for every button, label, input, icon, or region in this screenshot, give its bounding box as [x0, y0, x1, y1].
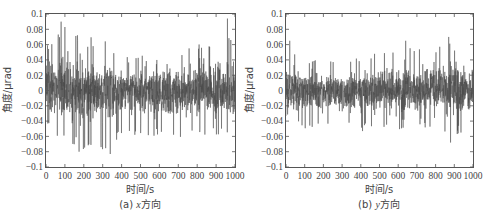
y-tick-label: 0.08 [26, 25, 43, 35]
x-tick-label: 0 [284, 171, 289, 181]
y-tick-label: 0.08 [266, 25, 283, 35]
y-tick-labels: −0.1−0.08−0.06−0.04−0.0200.020.040.060.0… [261, 9, 283, 172]
x-axis-label: 时间/s [365, 183, 394, 195]
x-tick-label: 600 [152, 171, 167, 181]
x-tick-labels: 01002003004005006007008009001000 [44, 171, 245, 181]
y-tick-labels: −0.1−0.08−0.06−0.04−0.0200.020.040.060.0… [21, 9, 43, 172]
x-tick-label: 100 [58, 171, 73, 181]
y-tick-label: −0.02 [261, 101, 283, 111]
y-tick-label: 0.06 [266, 40, 283, 50]
panel-y-direction: −0.1−0.08−0.06−0.04−0.0200.020.040.060.0… [243, 9, 483, 210]
y-tick-label: −0.1 [26, 162, 43, 172]
x-tick-label: 1000 [226, 171, 245, 181]
x-tick-label: 200 [316, 171, 331, 181]
y-tick-label: 0.06 [26, 40, 43, 50]
x-tick-label: 700 [171, 171, 186, 181]
y-axis-label: 角度/μrad [243, 67, 255, 113]
panel-caption: (b) y方向 [358, 198, 400, 210]
x-tick-label: 800 [428, 171, 443, 181]
y-tick-label: 0.04 [266, 55, 283, 65]
y-tick-label: −0.04 [261, 116, 283, 126]
x-tick-label: 800 [190, 171, 205, 181]
x-tick-labels: 01002003004005006007008009001000 [284, 171, 483, 181]
y-tick-label: 0.02 [266, 71, 283, 81]
panel-x-direction: −0.1−0.08−0.06−0.04−0.0200.020.040.060.0… [1, 9, 245, 210]
y-tick-label: −0.06 [21, 132, 43, 142]
y-tick-label: 0.04 [26, 55, 43, 65]
y-axis-label: 角度/μrad [1, 67, 13, 113]
x-tick-label: 500 [133, 171, 148, 181]
x-tick-label: 700 [410, 171, 425, 181]
y-tick-label: −0.02 [21, 101, 43, 111]
signal-trace-x [46, 19, 235, 154]
x-tick-label: 300 [335, 171, 350, 181]
x-tick-label: 900 [447, 171, 462, 181]
y-tick-label: 0.1 [31, 9, 43, 19]
panel-caption: (a) x方向 [119, 198, 161, 210]
signal-line [286, 37, 473, 143]
x-tick-label: 900 [209, 171, 224, 181]
signal-trace-y [286, 37, 473, 143]
x-tick-label: 600 [391, 171, 406, 181]
x-tick-label: 500 [372, 171, 387, 181]
y-tick-label: −0.1 [266, 162, 283, 172]
y-tick-label: −0.04 [21, 116, 43, 126]
y-tick-label: −0.08 [21, 147, 43, 157]
signal-line [46, 19, 235, 154]
x-axis-label: 时间/s [126, 183, 155, 195]
x-tick-label: 300 [96, 171, 111, 181]
x-tick-label: 100 [298, 171, 313, 181]
y-tick-label: −0.06 [261, 132, 283, 142]
y-tick-label: 0 [278, 86, 283, 96]
figure: −0.1−0.08−0.06−0.04−0.0200.020.040.060.0… [0, 0, 490, 216]
x-tick-label: 400 [354, 171, 369, 181]
y-tick-label: −0.08 [261, 147, 283, 157]
x-tick-label: 1000 [464, 171, 483, 181]
y-tick-label: 0 [38, 86, 43, 96]
x-tick-label: 400 [114, 171, 129, 181]
x-tick-label: 200 [77, 171, 92, 181]
y-tick-label: 0.1 [271, 9, 283, 19]
y-tick-label: 0.02 [26, 71, 43, 81]
x-tick-label: 0 [44, 171, 49, 181]
